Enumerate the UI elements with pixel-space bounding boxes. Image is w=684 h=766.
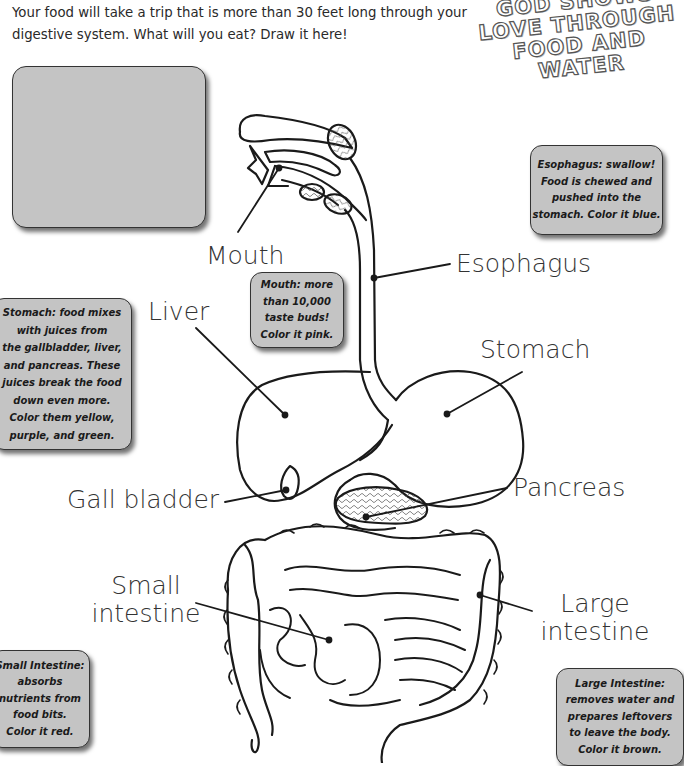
note-line: stomach. Color it blue. bbox=[531, 207, 662, 224]
note-line: absorbs bbox=[0, 674, 89, 691]
note-line: nutrients from bbox=[0, 691, 89, 708]
mouth-structure-icon bbox=[240, 115, 366, 220]
label-small-intestine-line-1: Small bbox=[84, 572, 208, 600]
note-line: Color it pink. bbox=[251, 327, 343, 344]
note-large-intestine: Large Intestine: removes water and prepa… bbox=[556, 668, 684, 766]
label-small-intestine: Small intestine bbox=[84, 572, 208, 628]
note-esophagus: Esophagus: swallow! Food is chewed and p… bbox=[530, 145, 663, 235]
note-line: Color them yellow, bbox=[0, 409, 131, 427]
note-small-intestine: Small Intestine: absorbs nutrients from … bbox=[0, 650, 90, 748]
note-line: pushed into the bbox=[531, 190, 662, 207]
note-line: food bits. bbox=[0, 707, 89, 724]
note-line: Large Intestine: bbox=[557, 676, 683, 693]
note-line: Small Intestine: bbox=[0, 658, 89, 675]
note-line: Esophagus: swallow! bbox=[531, 157, 662, 174]
label-pancreas: Pancreas bbox=[513, 474, 625, 502]
esophagus-structure bbox=[345, 158, 396, 420]
note-line: taste buds! bbox=[251, 310, 343, 327]
label-esophagus: Esophagus bbox=[456, 250, 591, 278]
label-mouth: Mouth bbox=[206, 242, 284, 270]
note-line: prepares leftovers bbox=[557, 709, 683, 726]
label-large-intestine-line-2: intestine bbox=[520, 618, 670, 646]
note-line: Color it brown. bbox=[557, 742, 683, 759]
large-intestine-structure bbox=[228, 526, 501, 763]
note-line: than 10,000 bbox=[251, 294, 343, 311]
note-line: Stomach: food mixes bbox=[0, 304, 131, 322]
note-line: purple, and green. bbox=[0, 427, 131, 445]
note-line: Mouth: more bbox=[251, 277, 343, 294]
note-line: and pancreas. These bbox=[0, 357, 131, 375]
label-large-intestine-line-1: Large bbox=[520, 590, 670, 618]
pancreas-structure bbox=[336, 487, 427, 523]
note-stomach: Stomach: food mixes with juices from the… bbox=[0, 298, 132, 450]
label-liver: Liver bbox=[148, 298, 209, 326]
label-large-intestine: Large intestine bbox=[520, 590, 670, 646]
gall-bladder-structure bbox=[281, 466, 299, 499]
note-line: to leave the body. bbox=[557, 725, 683, 742]
note-line: the gallbladder, liver, bbox=[0, 339, 131, 357]
note-line: down even more. bbox=[0, 392, 131, 410]
label-stomach: Stomach bbox=[480, 336, 590, 364]
note-line: Food is chewed and bbox=[531, 174, 662, 191]
label-small-intestine-line-2: intestine bbox=[84, 600, 208, 628]
note-line: removes water and bbox=[557, 692, 683, 709]
note-line: juices break the food bbox=[0, 374, 131, 392]
label-gall-bladder: Gall bladder bbox=[67, 486, 219, 514]
note-line: with juices from bbox=[0, 322, 131, 340]
note-line: Color it red. bbox=[0, 724, 89, 741]
small-intestine-structure bbox=[260, 566, 465, 705]
note-mouth: Mouth: more than 10,000 taste buds! Colo… bbox=[250, 272, 344, 348]
